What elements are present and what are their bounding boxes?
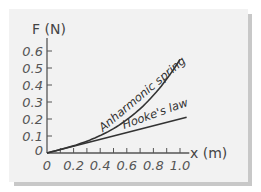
y-tick-label: 0 — [35, 143, 43, 158]
chart-svg: 00.20.40.60.81.000.10.20.30.40.50.6 F (N… — [0, 0, 261, 192]
axes — [47, 38, 189, 153]
y-axis-label: F (N) — [32, 21, 66, 37]
x-tick-label: 0.4 — [90, 158, 111, 173]
x-tick-label: 0 — [43, 158, 51, 173]
x-tick-label: 0.2 — [63, 158, 84, 173]
y-tick-label: 0.4 — [22, 78, 43, 93]
x-tick-label: 0.6 — [116, 158, 137, 173]
x-tick-label: 1.0 — [170, 158, 191, 173]
y-tick-label: 0.5 — [22, 61, 43, 76]
y-tick-label: 0.6 — [22, 44, 43, 59]
y-tick-label: 0.1 — [22, 129, 43, 144]
y-tick-label: 0.2 — [22, 112, 43, 127]
y-tick-label: 0.3 — [22, 95, 43, 110]
x-tick-label: 0.8 — [143, 158, 164, 173]
x-axis-label: x (m) — [190, 145, 227, 161]
